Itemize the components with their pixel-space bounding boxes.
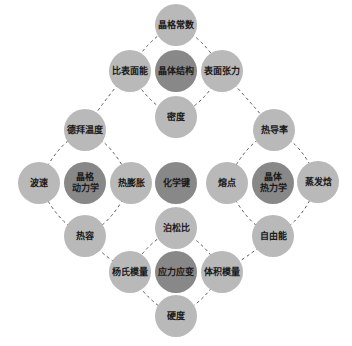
node-hardness: 硬度 [155,295,197,337]
node-wave-velocity: 波速 [18,162,60,204]
node-chemical-bond: 化学键 [155,162,197,204]
node-thermal-conductivity: 热导率 [253,109,295,151]
node-lattice-dynamics: 晶格 动力学 [64,162,106,204]
node-youngs-modulus: 杨氏模量 [109,251,151,293]
node-enthalpy-of-vaporization: 蒸发焓 [297,161,339,203]
node-melting-point: 熔点 [206,162,248,204]
node-stress-strain: 应力应变 [155,251,197,293]
node-specific-surface-energy: 比表面能 [109,50,151,92]
node-density: 密度 [155,96,197,138]
node-debye-temperature: 德拜温度 [64,109,106,151]
node-surface-tension: 表面张力 [201,50,243,92]
node-lattice-constant: 晶格常数 [155,4,197,46]
node-thermal-expansion: 热膨胀 [110,162,152,204]
property-network-diagram: 化学键 晶格常数 比表面能 晶体结构 表面张力 密度 德拜温度 波速 晶格 动力… [0,0,352,346]
node-crystal-thermodynamics: 晶体 热力学 [252,162,294,204]
node-heat-capacity: 热容 [64,215,106,257]
node-bulk-modulus: 体积模量 [201,251,243,293]
node-poisson-ratio: 泊松比 [155,207,197,249]
node-free-energy: 自由能 [252,215,294,257]
node-crystal-structure: 晶体结构 [155,50,197,92]
